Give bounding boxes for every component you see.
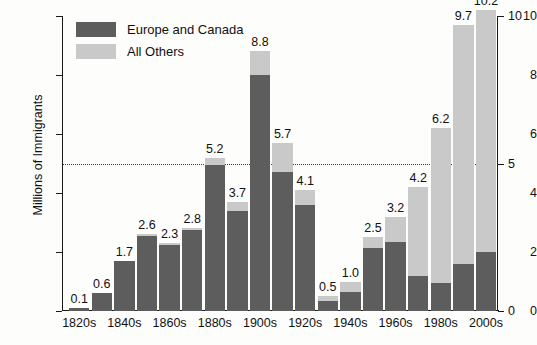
bar-segment-europe-and-canada-1840s bbox=[114, 261, 134, 311]
bar-1990s: 9.7 bbox=[453, 25, 473, 311]
bar-value-label-1880s: 5.2 bbox=[206, 143, 223, 156]
bar-segment-europe-and-canada-1910s bbox=[272, 172, 292, 311]
bar-1870s: 2.8 bbox=[182, 228, 202, 311]
bar-segment-all-others-1940s bbox=[340, 282, 360, 292]
bar-segment-all-others-1950s bbox=[363, 237, 383, 247]
x-tick-label-1920s: 1920s bbox=[288, 316, 322, 330]
bar-1880s: 5.2 bbox=[205, 158, 225, 311]
bar-segment-europe-and-canada-1920s bbox=[295, 205, 315, 311]
bar-segment-europe-and-canada-1970s bbox=[408, 276, 428, 311]
bar-value-label-1840s: 1.7 bbox=[116, 246, 133, 259]
bar-segment-europe-and-canada-1960s bbox=[385, 242, 405, 311]
y-tick-label-right-0: 0 bbox=[508, 305, 515, 317]
bar-1900s: 8.8 bbox=[250, 51, 270, 311]
bar-value-label-1970s: 4.2 bbox=[409, 172, 426, 185]
bar-segment-all-others-1910s bbox=[272, 143, 292, 173]
legend-label-europe-and-canada: Europe and Canada bbox=[127, 22, 243, 37]
bar-segment-all-others-2000s bbox=[476, 10, 496, 252]
bar-value-label-1860s: 2.3 bbox=[161, 228, 178, 241]
bar-value-label-1820s: 0.1 bbox=[70, 293, 87, 306]
y-tick-label-right-10: 10 bbox=[508, 10, 522, 22]
bar-2000s: 10.2 bbox=[476, 10, 496, 311]
immigration-bar-chart: Millions of Immigrants 0246810 0510 0.10… bbox=[0, 0, 537, 345]
bar-segment-all-others-1860s bbox=[159, 243, 179, 244]
bar-1970s: 4.2 bbox=[408, 187, 428, 311]
bar-1820s: 0.1 bbox=[69, 308, 89, 311]
bar-segment-europe-and-canada-2000s bbox=[476, 252, 496, 311]
bar-segment-all-others-1890s bbox=[227, 202, 247, 211]
x-tick-label-1860s: 1860s bbox=[153, 316, 187, 330]
y-axis-title: Millions of Immigrants bbox=[31, 55, 45, 255]
bar-segment-europe-and-canada-1900s bbox=[250, 75, 270, 311]
x-tick-label-1940s: 1940s bbox=[333, 316, 367, 330]
y-tick-right-5 bbox=[498, 164, 504, 165]
bar-segment-all-others-1960s bbox=[385, 217, 405, 242]
bar-1940s: 1.0 bbox=[340, 282, 360, 312]
x-tick-label-1840s: 1840s bbox=[107, 316, 141, 330]
bar-1910s: 5.7 bbox=[272, 143, 292, 311]
bar-1950s: 2.5 bbox=[363, 237, 383, 311]
bar-segment-all-others-1850s bbox=[137, 234, 157, 235]
y-tick-label-right-5: 5 bbox=[508, 158, 515, 170]
bar-1960s: 3.2 bbox=[385, 217, 405, 311]
bar-segment-europe-and-canada-1990s bbox=[453, 264, 473, 311]
bar-segment-all-others-1970s bbox=[408, 187, 428, 276]
bar-segment-europe-and-canada-1830s bbox=[92, 293, 112, 311]
bar-1920s: 4.1 bbox=[295, 190, 315, 311]
bar-segment-all-others-1930s bbox=[318, 296, 338, 300]
bar-1860s: 2.3 bbox=[159, 243, 179, 311]
legend-item-all-others: All Others bbox=[76, 44, 243, 59]
bar-value-label-1870s: 2.8 bbox=[183, 213, 200, 226]
bar-value-label-1910s: 5.7 bbox=[274, 128, 291, 141]
legend-swatch-europe-and-canada bbox=[76, 22, 116, 37]
bar-segment-all-others-1990s bbox=[453, 25, 473, 264]
bar-value-label-1950s: 2.5 bbox=[364, 222, 381, 235]
bar-segment-europe-and-canada-1930s bbox=[318, 301, 338, 311]
y-tick-left-6 bbox=[56, 134, 62, 135]
bar-segment-europe-and-canada-1890s bbox=[227, 211, 247, 311]
y-tick-left-4 bbox=[56, 193, 62, 194]
bar-value-label-1930s: 0.5 bbox=[319, 281, 336, 294]
bar-value-label-2000s: 10.2 bbox=[474, 0, 498, 8]
bar-segment-europe-and-canada-1940s bbox=[340, 292, 360, 311]
x-tick-label-1980s: 1980s bbox=[424, 316, 458, 330]
x-tick-label-2000s: 2000s bbox=[469, 316, 503, 330]
bar-1980s: 6.2 bbox=[431, 128, 451, 311]
bar-value-label-1940s: 1.0 bbox=[342, 267, 359, 280]
y-tick-right-10 bbox=[498, 16, 504, 17]
x-tick-label-1880s: 1880s bbox=[198, 316, 232, 330]
bar-segment-europe-and-canada-1980s bbox=[431, 283, 451, 311]
bar-1890s: 3.7 bbox=[227, 202, 247, 311]
x-tick-label-1960s: 1960s bbox=[379, 316, 413, 330]
y-tick-left-8 bbox=[56, 75, 62, 76]
bar-segment-europe-and-canada-1870s bbox=[182, 230, 202, 311]
legend-swatch-all-others bbox=[76, 44, 116, 59]
x-tick-label-1820s: 1820s bbox=[62, 316, 96, 330]
bar-segment-europe-and-canada-1880s bbox=[205, 165, 225, 311]
y-tick-left-2 bbox=[56, 252, 62, 253]
bar-value-label-1900s: 8.8 bbox=[251, 36, 268, 49]
bar-value-label-1990s: 9.7 bbox=[455, 10, 472, 23]
bar-segment-europe-and-canada-1850s bbox=[137, 236, 157, 311]
bar-value-label-1980s: 6.2 bbox=[432, 113, 449, 126]
y-tick-right-0 bbox=[498, 311, 504, 312]
bar-segment-all-others-1880s bbox=[205, 158, 225, 165]
bar-value-label-1890s: 3.7 bbox=[229, 187, 246, 200]
legend-label-all-others: All Others bbox=[127, 44, 184, 59]
bar-value-label-1830s: 0.6 bbox=[93, 278, 110, 291]
bar-segment-all-others-1980s bbox=[431, 128, 451, 283]
bar-segment-europe-and-canada-1860s bbox=[159, 245, 179, 311]
bar-1830s: 0.6 bbox=[92, 293, 112, 311]
bar-segment-europe-and-canada-1950s bbox=[363, 248, 383, 311]
bar-value-label-1920s: 4.1 bbox=[296, 175, 313, 188]
bar-segment-europe-and-canada-1820s bbox=[69, 308, 89, 311]
bar-segment-all-others-1920s bbox=[295, 190, 315, 205]
x-tick-label-1900s: 1900s bbox=[243, 316, 277, 330]
bar-1850s: 2.6 bbox=[137, 234, 157, 311]
y-tick-left-10 bbox=[56, 16, 62, 17]
bar-1930s: 0.5 bbox=[318, 296, 338, 311]
bar-1840s: 1.7 bbox=[114, 261, 134, 311]
bar-segment-all-others-1870s bbox=[182, 228, 202, 229]
chart-legend: Europe and Canada All Others bbox=[76, 22, 243, 66]
legend-item-europe-and-canada: Europe and Canada bbox=[76, 22, 243, 37]
